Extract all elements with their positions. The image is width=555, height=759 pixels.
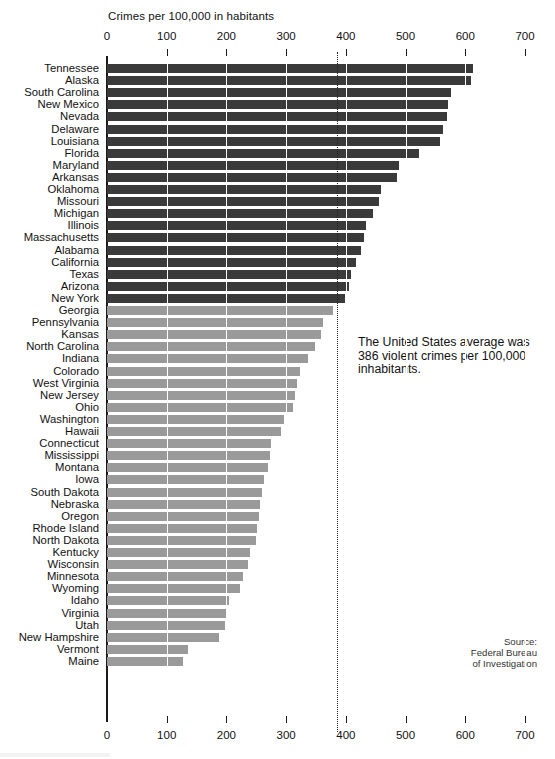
x-tick-label-400: 400	[336, 30, 355, 42]
bar-fill	[107, 137, 440, 146]
y-label-minnesota: Minnesota	[47, 571, 99, 582]
y-label-west-virginia: West Virginia	[33, 378, 99, 389]
y-label-tennessee: Tennessee	[44, 63, 99, 74]
bar-new-mexico	[107, 100, 448, 109]
x-axis-bottom: 0100200300400500600700	[0, 714, 555, 740]
gridline-400	[346, 64, 347, 714]
y-label-oregon: Oregon	[61, 511, 99, 522]
bar-fill	[107, 318, 323, 327]
gridline-200	[226, 64, 227, 714]
y-label-california: California	[51, 257, 99, 268]
bar-oklahoma	[107, 185, 381, 194]
bar-fill	[107, 367, 300, 376]
bar-fill	[107, 439, 271, 448]
x-tick-label-700: 700	[515, 729, 534, 741]
bar-ohio	[107, 403, 293, 412]
chart-title: Crimes per 100,000 in habitants	[108, 10, 274, 22]
x-tick-mark-300	[286, 716, 287, 723]
bar-fill	[107, 475, 264, 484]
y-axis-category-labels: TennesseeAlaskaSouth CarolinaNew MexicoN…	[0, 64, 99, 714]
y-label-michigan: Michigan	[54, 208, 99, 219]
bar-alaska	[107, 76, 471, 85]
x-tick-label-600: 600	[456, 30, 475, 42]
bar-fill	[107, 403, 293, 412]
y-label-alabama: Alabama	[54, 245, 99, 256]
y-label-missouri: Missouri	[57, 196, 99, 207]
y-label-virginia: Virginia	[62, 608, 99, 619]
bar-fill	[107, 536, 256, 545]
bar-south-dakota	[107, 488, 262, 497]
bar-maryland	[107, 161, 399, 170]
y-label-pennsylvania: Pennsylvania	[32, 317, 99, 328]
x-tick-label-100: 100	[157, 30, 176, 42]
bar-fill	[107, 488, 262, 497]
bar-louisiana	[107, 137, 440, 146]
bar-fill	[107, 596, 229, 605]
bar-tennessee	[107, 64, 473, 73]
bar-arizona	[107, 282, 349, 291]
plot-area	[107, 64, 525, 714]
bar-fill	[107, 306, 333, 315]
x-tick-mark-500	[406, 716, 407, 723]
y-label-alaska: Alaska	[65, 75, 99, 86]
bar-illinois	[107, 221, 366, 230]
x-tick-mark-700	[525, 49, 526, 56]
y-label-new-hampshire: New Hampshire	[19, 632, 99, 643]
bar-georgia	[107, 306, 333, 315]
average-reference-line	[337, 52, 338, 732]
y-label-utah: Utah	[75, 620, 99, 631]
bar-fill	[107, 209, 373, 218]
bar-west-virginia	[107, 379, 297, 388]
bar-fill	[107, 524, 257, 533]
bar-fill	[107, 270, 351, 279]
y-label-new-jersey: New Jersey	[40, 390, 99, 401]
bar-delaware	[107, 125, 443, 134]
bar-fill	[107, 112, 447, 121]
bar-fill	[107, 221, 366, 230]
x-tick-mark-200	[226, 716, 227, 723]
y-label-illinois: Illinois	[68, 220, 99, 231]
y-label-idaho: Idaho	[71, 595, 99, 606]
bar-fill	[107, 76, 471, 85]
y-label-kansas: Kansas	[61, 329, 99, 340]
y-label-kentucky: Kentucky	[53, 547, 99, 558]
y-label-washington: Washington	[40, 414, 99, 425]
x-tick-mark-500	[406, 49, 407, 56]
x-tick-mark-700	[525, 716, 526, 723]
y-label-connecticut: Connecticut	[39, 438, 99, 449]
bar-mississippi	[107, 451, 270, 460]
bar-fill	[107, 173, 397, 182]
y-label-iowa: Iowa	[75, 474, 99, 485]
bar-fill	[107, 645, 188, 654]
source-line-3: of Investigation	[377, 658, 537, 669]
gridline-300	[286, 64, 287, 714]
bar-north-dakota	[107, 536, 256, 545]
y-label-nebraska: Nebraska	[51, 499, 99, 510]
y-label-arkansas: Arkansas	[52, 172, 99, 183]
bar-nebraska	[107, 500, 260, 509]
x-tick-mark-300	[286, 49, 287, 56]
bar-iowa	[107, 475, 264, 484]
bar-fill	[107, 391, 295, 400]
bar-minnesota	[107, 572, 243, 581]
source-line-1: Source:	[377, 636, 537, 647]
y-label-ohio: Ohio	[75, 402, 99, 413]
bar-fill	[107, 88, 451, 97]
y-label-new-mexico: New Mexico	[37, 99, 99, 110]
y-label-arizona: Arizona	[61, 281, 99, 292]
y-label-texas: Texas	[69, 269, 99, 280]
bar-fill	[107, 149, 419, 158]
bar-maine	[107, 657, 183, 666]
y-label-south-carolina: South Carolina	[24, 87, 99, 98]
y-label-louisiana: Louisiana	[51, 136, 99, 147]
y-label-massachusetts: Massachusetts	[24, 232, 99, 243]
y-label-maryland: Maryland	[53, 160, 99, 171]
x-tick-label-500: 500	[396, 729, 415, 741]
bar-oregon	[107, 512, 259, 521]
bar-fill	[107, 451, 270, 460]
y-label-delaware: Delaware	[51, 124, 99, 135]
bar-indiana	[107, 354, 308, 363]
bar-new-hampshire	[107, 633, 219, 642]
bar-massachusetts	[107, 233, 364, 242]
bar-south-carolina	[107, 88, 451, 97]
